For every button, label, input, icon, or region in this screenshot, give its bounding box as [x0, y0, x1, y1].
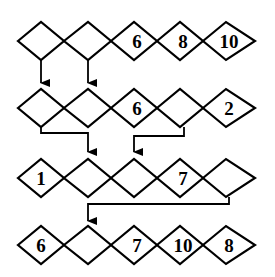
svg-text:7: 7	[132, 235, 142, 256]
row-2: 6 2	[18, 89, 255, 127]
cell-1-2	[64, 22, 111, 60]
cell-3-3	[111, 159, 157, 197]
row-3: 1 7	[18, 159, 255, 197]
svg-text:8: 8	[178, 31, 188, 52]
cell-2-5: 2	[203, 89, 255, 127]
cell-2-1	[18, 89, 64, 127]
cell-3-5	[203, 159, 255, 197]
svg-text:8: 8	[224, 235, 234, 256]
row-4: 6 7 10 8	[18, 226, 255, 264]
cell-1-1	[18, 22, 64, 60]
cell-4-1: 6	[18, 226, 64, 264]
cell-3-1: 1	[18, 159, 64, 197]
svg-text:2: 2	[224, 98, 234, 119]
cell-4-4: 10	[157, 226, 203, 264]
arrow-5	[88, 197, 229, 221]
cell-4-3: 7	[111, 226, 157, 264]
cell-1-3: 6	[111, 22, 157, 60]
cell-3-2	[64, 159, 111, 197]
diamond-diagram: 6 8 10 6 2 1 7 6 7 10 8	[0, 0, 275, 277]
cell-2-4	[157, 89, 203, 127]
arrow-3	[41, 127, 88, 152]
svg-text:6: 6	[132, 31, 142, 52]
svg-text:7: 7	[178, 168, 188, 189]
svg-text:10: 10	[174, 235, 193, 256]
svg-text:1: 1	[36, 168, 46, 189]
cell-1-4: 8	[157, 22, 203, 60]
cell-1-5: 10	[203, 22, 255, 60]
cell-4-2	[64, 226, 111, 264]
row-1: 6 8 10	[18, 22, 255, 60]
cell-2-2	[64, 89, 111, 127]
arrow-4	[134, 127, 184, 152]
svg-text:6: 6	[36, 235, 46, 256]
svg-text:6: 6	[132, 98, 142, 119]
cell-2-3: 6	[111, 89, 157, 127]
cell-4-5: 8	[203, 226, 255, 264]
svg-text:10: 10	[220, 31, 239, 52]
cell-3-4: 7	[157, 159, 203, 197]
